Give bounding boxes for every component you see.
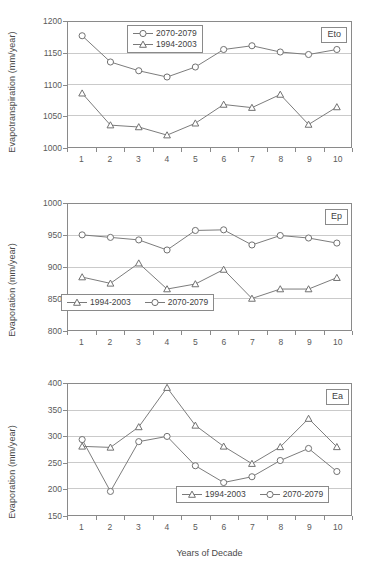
x-axis-tick-label: 7 [242, 154, 262, 164]
x-axis-tick-label: 4 [157, 154, 177, 164]
y-axis-tick-label: 1100 [32, 81, 62, 89]
plot-area-ep [67, 203, 352, 331]
data-point-marker-triangle [79, 90, 86, 96]
x-axis-tick-label: 3 [128, 154, 148, 164]
x-axis-tick-marks-ep [67, 331, 352, 335]
data-point-marker-triangle [333, 274, 340, 280]
series-line [82, 230, 337, 250]
legend-label: 1994-2003 [90, 298, 131, 307]
data-point-marker-circle [164, 247, 170, 253]
x-axis-tick-mark [124, 331, 125, 335]
legend-circle-icon [145, 298, 165, 307]
legend-label: 1994-2003 [156, 40, 197, 49]
data-point-marker-circle [107, 488, 113, 494]
plot-svg-ep [68, 204, 351, 330]
x-axis-tick-mark [96, 331, 97, 335]
y-axis-title-ep: Evaporation (mm/year) [7, 220, 21, 360]
x-axis-tick-mark [210, 148, 211, 152]
x-axis-tick-mark [153, 331, 154, 335]
x-axis-tick-mark [352, 148, 353, 152]
y-axis-title-ea: Evaporation (mm/year) [7, 402, 21, 542]
data-point-marker-circle [192, 64, 198, 70]
legend-entry: 2070-2079 [133, 29, 197, 38]
y-axis-tick-label: 800 [32, 327, 62, 335]
data-point-marker-circle [305, 235, 311, 241]
legend-circle-icon [260, 490, 280, 499]
x-axis-tick-mark [324, 331, 325, 335]
x-axis-tick-label: 9 [299, 522, 319, 532]
x-axis-tick-label: 8 [271, 522, 291, 532]
x-axis-tick-label: 4 [157, 337, 177, 347]
y-axis-tick-label: 950 [32, 231, 62, 239]
x-axis-tick-label: 10 [328, 154, 348, 164]
data-point-marker-circle [192, 463, 198, 469]
panel-tag-ep: Ep [325, 209, 348, 225]
data-point-marker-triangle [79, 274, 86, 280]
plot-svg-eto [68, 22, 351, 147]
x-axis-tick-label: 10 [328, 337, 348, 347]
x-axis-tick-label: 5 [185, 154, 205, 164]
x-axis-tick-mark [295, 331, 296, 335]
data-point-marker-circle [249, 242, 255, 248]
panel-tag-ea: Ea [326, 389, 349, 405]
chart-panel-eto: Evapotranspiration (mm/year) 12001150110… [0, 0, 367, 196]
x-axis-tick-labels-eto: 12345678910 [67, 154, 352, 166]
x-axis-tick-mark [295, 148, 296, 152]
legend-entry: 2070-2079 [260, 490, 324, 499]
x-axis-tick-label: 5 [185, 522, 205, 532]
data-point-marker-triangle [305, 415, 312, 421]
x-axis-tick-mark [238, 516, 239, 520]
y-axis-tick-label: 1000 [32, 199, 62, 207]
x-axis-tick-mark [324, 148, 325, 152]
y-axis-tick-label: 1050 [32, 112, 62, 120]
series-1 [79, 33, 340, 80]
y-axis-tick-label: 1000 [32, 144, 62, 152]
x-axis-tick-label: 1 [71, 337, 91, 347]
y-axis-tick-label: 350 [32, 406, 62, 414]
plot-area-eto [67, 21, 352, 148]
x-axis-tick-mark [181, 148, 182, 152]
data-point-marker-circle [249, 43, 255, 49]
data-point-marker-circle [136, 68, 142, 74]
x-axis-tick-mark [267, 331, 268, 335]
x-axis-tick-mark [352, 331, 353, 335]
legend-label: 2070-2079 [168, 298, 209, 307]
y-axis-tick-labels-ep: 1000950900850800 [26, 203, 62, 331]
x-axis-tick-mark [153, 148, 154, 152]
x-axis-tick-label: 9 [299, 337, 319, 347]
data-point-marker-triangle [192, 281, 199, 287]
legend-ep: 1994-20032070-2079 [61, 294, 214, 311]
data-point-marker-circle [164, 433, 170, 439]
panel-tag-eto: Eto [321, 27, 347, 43]
legend-entry: 1994-2003 [133, 40, 197, 49]
y-axis-tick-label: 900 [32, 263, 62, 271]
x-axis-tick-label: 10 [328, 522, 348, 532]
x-axis-tick-label: 7 [242, 337, 262, 347]
data-point-marker-circle [334, 46, 340, 52]
legend-eto: 2070-20791994-2003 [127, 25, 203, 53]
data-point-marker-circle [249, 474, 255, 480]
x-axis-tick-mark [324, 516, 325, 520]
data-point-marker-circle [136, 439, 142, 445]
three-panel-evaporation-figure: Evapotranspiration (mm/year) 12001150110… [0, 0, 367, 584]
x-axis-tick-mark [181, 516, 182, 520]
data-point-marker-circle [221, 227, 227, 233]
data-point-marker-circle [305, 51, 311, 57]
x-axis-tick-mark [238, 331, 239, 335]
data-point-marker-triangle [220, 101, 227, 107]
legend-label: 2070-2079 [283, 490, 324, 499]
x-axis-tick-labels-ep: 12345678910 [67, 337, 352, 349]
data-point-marker-circle [192, 227, 198, 233]
legend-circle-icon [133, 29, 153, 38]
x-axis-tick-label: 6 [214, 337, 234, 347]
x-axis-tick-label: 8 [271, 337, 291, 347]
x-axis-tick-label: 6 [214, 154, 234, 164]
y-axis-tick-label: 1150 [32, 49, 62, 57]
x-axis-tick-label: 8 [271, 154, 291, 164]
legend-label: 1994-2003 [205, 490, 246, 499]
legend-label: 2070-2079 [156, 29, 197, 38]
data-point-marker-circle [305, 445, 311, 451]
series-2 [79, 227, 340, 253]
x-axis-tick-label: 7 [242, 522, 262, 532]
y-axis-tick-label: 250 [32, 459, 62, 467]
